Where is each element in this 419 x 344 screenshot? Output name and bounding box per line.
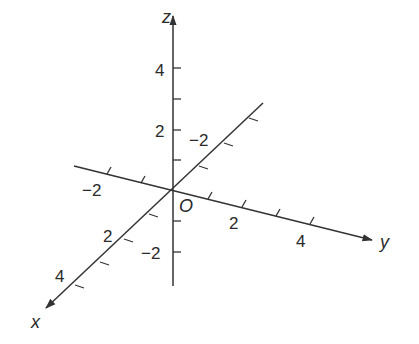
x-tick-label-2: 2 (103, 227, 112, 246)
z-tick-label-neg2: −2 (141, 244, 160, 263)
y-axis-label: y (378, 232, 390, 252)
x-axis-label: x (30, 312, 41, 332)
z-axis-label: z (161, 7, 171, 27)
y-axis (74, 166, 372, 240)
y-tick-label-neg2: −2 (82, 181, 101, 200)
z-tick-label-4: 4 (155, 61, 164, 80)
z-tick-label-2: 2 (155, 122, 164, 141)
x-tick-label-neg2: −2 (189, 131, 208, 150)
y-tick-label-2: 2 (229, 214, 238, 233)
y-tick-label-4: 4 (296, 232, 305, 251)
origin-label: O (179, 196, 193, 216)
coordinate-axes-diagram: z 4 2 −2 −2 2 4 x −2 2 4 y O (0, 0, 419, 344)
x-tick-label-4: 4 (55, 267, 64, 286)
z-axis (173, 16, 181, 286)
